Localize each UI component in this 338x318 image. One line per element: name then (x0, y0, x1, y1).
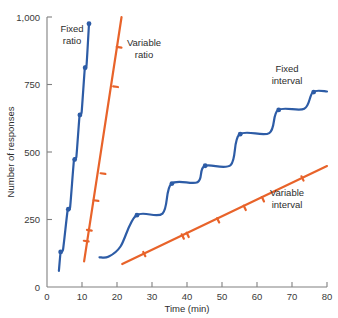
reinforcement-marker (203, 163, 208, 168)
reinforcement-tick (87, 230, 92, 231)
reinforcement-marker (58, 250, 63, 255)
x-tick-label: 70 (287, 291, 298, 302)
x-tick-label: 50 (217, 291, 228, 302)
x-tick-label: 60 (252, 291, 263, 302)
y-tick-label: 250 (24, 214, 40, 225)
series-line (100, 91, 328, 258)
reinforcement-marker (72, 157, 77, 162)
x-tick-label: 0 (44, 291, 49, 302)
label-variable-interval-line1: Variable (270, 187, 304, 198)
reinforcement-tick (84, 241, 89, 242)
series-line (84, 17, 121, 261)
y-tick-label: 1,000 (16, 12, 40, 23)
reinforcement-tick (113, 86, 118, 87)
reinforcement-marker (311, 90, 316, 95)
reinforcement-marker (276, 107, 281, 112)
label-variable-ratio-line1: Variable (127, 37, 161, 48)
y-axis-ticks (47, 17, 52, 220)
x-tick-label: 40 (182, 291, 193, 302)
axes-group (47, 17, 327, 287)
x-tick-label: 80 (322, 291, 333, 302)
reinforcement-tick (94, 200, 99, 201)
x-axis-ticks (82, 282, 327, 287)
reinforcement-tick (101, 173, 106, 174)
series-layer (58, 17, 327, 271)
reinforcement-marker (87, 21, 92, 26)
y-tick-label: 750 (24, 79, 40, 90)
series-fixed-interval (100, 90, 328, 258)
reinforcement-tick (262, 197, 264, 201)
label-fixed-interval-line2: interval (272, 75, 303, 86)
chart-container: 01020304050607080 02505007501,000 Time (… (0, 0, 338, 318)
label-variable-interval-line2: interval (272, 199, 303, 210)
x-tick-label: 30 (147, 291, 158, 302)
label-fixed-interval-line1: Fixed (275, 63, 298, 74)
series-variable-ratio (84, 17, 122, 261)
reinforcement-tick (244, 206, 246, 210)
x-tick-label: 10 (77, 291, 88, 302)
x-tick-label: 20 (112, 291, 123, 302)
reinforcement-tick (117, 47, 122, 48)
label-fixed-ratio-line1: Fixed (60, 23, 83, 34)
x-axis-title: Time (min) (164, 303, 209, 314)
reinforcement-marker (135, 213, 140, 218)
y-axis-title: Number of responses (5, 106, 16, 197)
label-fixed-ratio-line2: ratio (63, 35, 81, 46)
label-variable-ratio-line2: ratio (135, 49, 153, 60)
series-line (59, 24, 89, 271)
reinforcement-marker (170, 181, 175, 186)
y-axis-tick-labels: 02505007501,000 (16, 12, 40, 293)
reinforcement-marker (238, 132, 243, 137)
reinforcement-schedules-chart: 01020304050607080 02505007501,000 Time (… (0, 0, 338, 318)
series-fixed-ratio (58, 21, 91, 270)
reinforcement-marker (83, 65, 88, 70)
x-axis-tick-labels: 01020304050607080 (44, 291, 332, 302)
y-tick-label: 0 (35, 282, 40, 293)
reinforcement-marker (66, 207, 71, 212)
y-tick-label: 500 (24, 147, 40, 158)
reinforcement-marker (78, 113, 83, 118)
